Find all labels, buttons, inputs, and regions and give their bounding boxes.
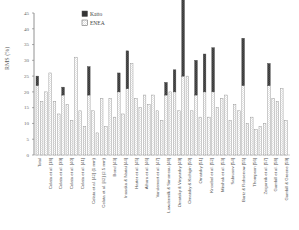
y-tick-label: 30 [24,58,30,63]
bar [40,101,43,155]
x-tick-label: Celata et al. [40] [69,158,74,189]
y-axis-label: RMS (%) [4,47,10,70]
bar [169,92,172,155]
bar [87,67,90,155]
x-tick-label: Gambill & Greene [59] [284,158,289,201]
legend-swatch [82,20,88,26]
bar [36,76,39,155]
bar [96,133,99,155]
bar [195,60,198,155]
bar [203,54,206,155]
x-tick-label: Total [37,158,42,167]
bar [199,117,202,155]
x-tick-label: Ornatsky [51] [198,158,203,184]
bar [276,101,279,155]
x-tick-label: Bartz & Rohsenow [55] [241,158,246,202]
x-tick-label: Inasaka & Nariai [44] [123,158,128,198]
bar [49,73,52,155]
bar [66,105,69,155]
y-tick-label: 15 [24,105,30,110]
bar [208,117,211,155]
bar [250,117,253,155]
x-tick-label: Mirshak et al. [53] [220,158,225,192]
x-tick-label: Celata et al. [42] (1 mm) [91,157,96,204]
y-tick-label: 0 [27,153,30,158]
x-tick-label: Thompson [56] [252,158,257,187]
bar [229,120,232,155]
x-tick-label: Aihara et al. [46] [144,158,149,189]
y-tick-label: 10 [24,121,30,126]
bar [182,0,185,155]
y-tick-label: 25 [24,74,30,79]
bar [70,120,73,155]
bar [220,98,223,155]
legend-swatch [82,11,88,17]
bar [130,63,133,155]
legend-label: Katto [90,11,102,17]
x-tick-label: Ornatsky & Vinyarsky [49] [177,158,182,207]
bar [117,73,120,155]
bar [105,127,108,155]
bar [113,117,116,155]
bar [62,87,65,155]
bar [255,130,258,155]
y-tick-label: 20 [24,90,30,95]
bar [285,120,288,155]
x-tick-label: Zeigarnik et al. [57] [263,158,268,195]
bar [79,111,82,155]
x-tick-label: Harter et al. [45] [134,158,139,189]
bar [263,123,266,155]
bar [53,101,56,155]
y-tick-label: 45 [24,11,30,16]
x-tick-label: Celata et al. [39] [58,158,63,189]
bar [216,108,219,155]
bar [225,95,228,155]
bar [126,51,129,155]
bar [100,98,103,155]
bar [143,95,146,155]
bar [268,63,271,155]
bar [186,76,189,155]
bar [75,57,78,155]
bar [152,95,155,155]
bar [190,111,193,155]
bar [272,98,275,155]
x-tick-label: Celata et al. [42] (2.5 mm) [101,157,106,207]
bar [280,89,283,155]
bar [238,111,241,155]
bar [165,82,168,155]
bar [57,114,60,155]
y-tick-label: 40 [24,27,30,32]
bar [242,38,245,155]
x-tick-label: Bond [43] [112,158,117,176]
bar [135,98,138,155]
bar [259,127,262,155]
bar [45,92,48,155]
bar [109,98,112,155]
legend: KattoENEA [82,11,105,26]
x-tick-label: Celata et al. [41] [80,158,85,189]
x-tick-label: Knoebel et al. [52] [209,158,214,193]
bar [122,114,125,155]
x-axis-labels: TotalCelata et al. [18]Celata et al. [39… [37,157,289,212]
x-tick-label: Gambill et al. [58] [273,158,278,191]
bar [173,70,176,155]
bar [212,48,215,155]
x-tick-label: Lowdermilk & Simoneau [48] [166,158,171,213]
x-tick-label: Ornatsky & Kichigin [50] [187,158,192,204]
bar-chart: 051015202530354045 KattoENEA TotalCelata… [0,0,299,230]
bar [156,111,159,155]
bar [233,105,236,155]
bar [92,111,95,155]
x-tick-label: Vandervort et al. [47] [155,158,160,198]
x-tick-label: Celata et al. [18] [48,158,53,189]
bar [178,111,181,155]
y-tick-label: 35 [24,42,30,47]
legend-label: ENEA [90,20,105,26]
bars [36,0,287,155]
bar [246,123,249,155]
bar [147,105,150,155]
bar [160,120,163,155]
y-tick-label: 5 [27,137,30,142]
bar [83,127,86,155]
